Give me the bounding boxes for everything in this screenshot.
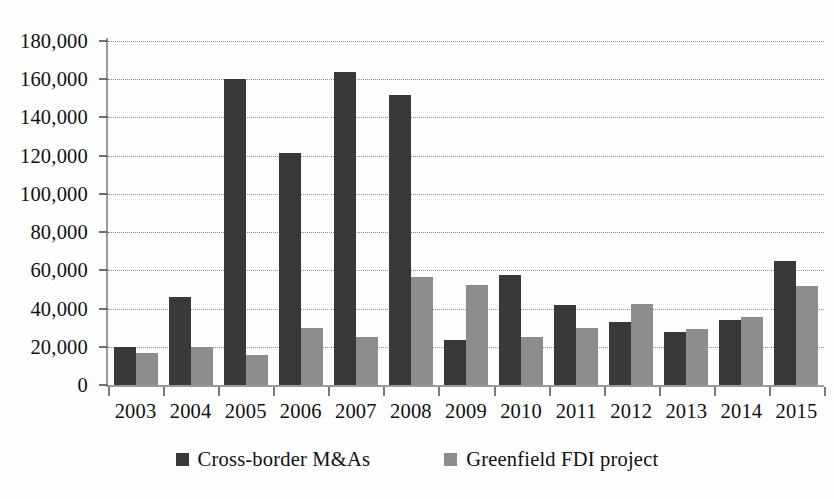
bar — [246, 355, 268, 385]
y-tick-label: 160,000 — [20, 68, 88, 91]
bar — [521, 337, 543, 385]
x-tick-mark — [494, 387, 496, 396]
bar-group — [438, 41, 493, 385]
bar-group — [659, 41, 714, 385]
bar — [136, 353, 158, 385]
y-tick-mark — [99, 231, 108, 233]
bar — [719, 320, 741, 385]
legend-entry[interactable]: Greenfield FDI project — [444, 448, 658, 471]
bar-group — [218, 41, 273, 385]
y-tick-label: 0 — [78, 374, 88, 397]
bar-group — [494, 41, 549, 385]
x-tick-mark — [438, 387, 440, 396]
bar — [444, 340, 466, 385]
x-tick-label: 2005 — [218, 400, 273, 434]
bar — [774, 261, 796, 385]
legend-label: Cross-border M&As — [198, 448, 371, 471]
bar — [466, 285, 488, 385]
x-tick-mark — [163, 387, 165, 396]
x-tick-mark — [383, 387, 385, 396]
y-tick-mark — [99, 384, 108, 386]
bar — [114, 347, 136, 385]
y-tick-mark — [99, 269, 108, 271]
x-tick-mark — [604, 387, 606, 396]
y-tick-label: 140,000 — [20, 106, 88, 129]
x-tick-label: 2014 — [714, 400, 769, 434]
x-tick-mark — [769, 387, 771, 396]
bar-group — [163, 41, 218, 385]
y-tick-mark — [99, 116, 108, 118]
y-tick-label: 40,000 — [30, 297, 88, 320]
legend-swatch-icon — [444, 453, 457, 466]
x-tick-label: 2006 — [273, 400, 328, 434]
bar-group — [383, 41, 438, 385]
bar-group — [549, 41, 604, 385]
y-tick-label: 60,000 — [30, 259, 88, 282]
y-tick-mark — [99, 346, 108, 348]
x-tick-label: 2012 — [604, 400, 659, 434]
bar — [389, 95, 411, 385]
bar — [279, 153, 301, 385]
y-tick-mark — [99, 308, 108, 310]
x-tick-label: 2003 — [108, 400, 163, 434]
y-tick-label: 100,000 — [20, 182, 88, 205]
x-tick-mark — [549, 387, 551, 396]
y-tick-mark — [99, 193, 108, 195]
bar — [334, 72, 356, 385]
bar — [631, 304, 653, 385]
legend-swatch-icon — [176, 453, 189, 466]
x-tick-label: 2007 — [328, 400, 383, 434]
bar — [576, 328, 598, 385]
bar-group — [604, 41, 659, 385]
bar-chart: 020,00040,00060,00080,000100,000120,0001… — [0, 0, 834, 499]
legend-label: Greenfield FDI project — [466, 448, 658, 471]
y-tick-label: 120,000 — [20, 144, 88, 167]
bar-group — [714, 41, 769, 385]
x-tick-label: 2008 — [383, 400, 438, 434]
x-tick-label: 2013 — [659, 400, 714, 434]
bar — [609, 322, 631, 385]
y-tick-label: 20,000 — [30, 335, 88, 358]
bar-group — [108, 41, 163, 385]
plot-area — [108, 41, 824, 385]
legend-entry[interactable]: Cross-border M&As — [176, 448, 371, 471]
y-tick-label: 180,000 — [20, 30, 88, 53]
x-tick-mark — [218, 387, 220, 396]
x-axis-line — [106, 385, 824, 387]
y-axis: 020,00040,00060,00080,000100,000120,0001… — [0, 0, 96, 400]
bar — [411, 277, 433, 385]
bar — [191, 347, 213, 385]
x-tick-mark — [714, 387, 716, 396]
bar — [356, 337, 378, 385]
bar — [664, 332, 686, 386]
x-tick-label: 2009 — [438, 400, 493, 434]
y-tick-mark — [99, 155, 108, 157]
x-axis-labels: 2003200420052006200720082009201020112012… — [108, 400, 824, 434]
bar-group — [273, 41, 328, 385]
y-tick-mark — [99, 78, 108, 80]
x-tick-label: 2010 — [494, 400, 549, 434]
bar — [169, 297, 191, 385]
x-tick-mark — [328, 387, 330, 396]
bar — [301, 328, 323, 385]
x-tick-label: 2004 — [163, 400, 218, 434]
bar — [499, 275, 521, 385]
y-tick-label: 80,000 — [30, 221, 88, 244]
bar — [686, 329, 708, 385]
bar — [796, 286, 818, 385]
bar — [224, 79, 246, 385]
x-tick-mark — [108, 387, 110, 396]
bar — [554, 305, 576, 385]
x-tick-label: 2011 — [549, 400, 604, 434]
y-tick-mark — [99, 40, 108, 42]
bar — [741, 317, 763, 385]
bars-layer — [108, 41, 824, 385]
x-tick-label: 2015 — [769, 400, 824, 434]
x-tick-mark — [273, 387, 275, 396]
bar-group — [328, 41, 383, 385]
x-tick-mark — [659, 387, 661, 396]
x-tick-mark — [824, 387, 826, 396]
legend: Cross-border M&AsGreenfield FDI project — [0, 448, 834, 471]
bar-group — [769, 41, 824, 385]
